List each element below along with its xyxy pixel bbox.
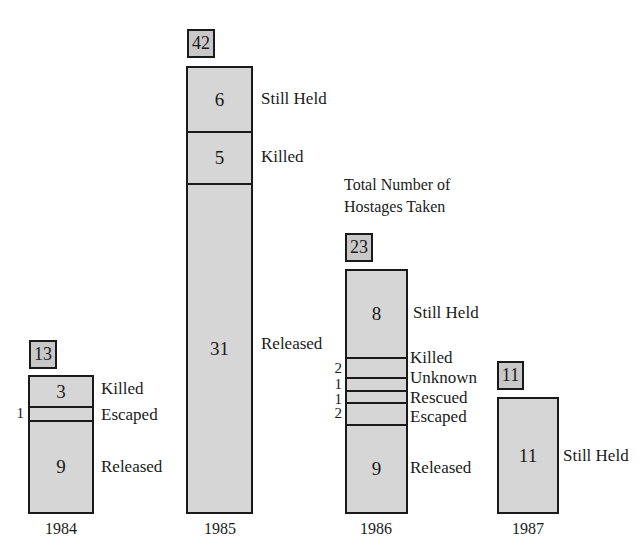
segment-escaped [30, 408, 92, 422]
bar-1986: 8 9 [345, 269, 408, 514]
label-rescued-1986: Rescued [410, 389, 468, 406]
segment-rescued [347, 392, 406, 404]
label-released-1984: Released [101, 458, 162, 475]
total-box-1984: 13 [29, 340, 57, 369]
year-1987: 1987 [493, 520, 563, 538]
label-killed-1986: Killed [410, 349, 453, 366]
label-released-1985: Released [261, 335, 322, 352]
legend-line-1: Total Number of [344, 174, 450, 196]
segment-unknown [347, 379, 406, 392]
bar-1985: 6 5 31 [186, 66, 253, 514]
segment-released: 31 [188, 185, 251, 512]
segment-escaped [347, 404, 406, 426]
segment-killed [347, 359, 406, 379]
label-still-held-1987: Still Held [563, 447, 629, 464]
label-escaped-1984: Escaped [101, 406, 158, 423]
segment-killed: 5 [188, 133, 251, 185]
segment-still-held: 6 [188, 68, 251, 133]
year-1986: 1986 [341, 520, 411, 538]
segment-still-held: 11 [499, 399, 557, 512]
value-escaped-1984: 1 [12, 406, 24, 421]
segment-released: 9 [347, 426, 406, 512]
segment-released: 9 [30, 422, 92, 512]
legend-line-2: Hostages Taken [344, 196, 450, 218]
segment-still-held: 8 [347, 271, 406, 359]
label-killed-1985: Killed [261, 148, 304, 165]
total-box-1985: 42 [187, 29, 215, 58]
label-escaped-1986: Escaped [410, 408, 467, 425]
value-escaped-1986: 2 [330, 406, 342, 421]
year-1985: 1985 [185, 520, 255, 538]
label-still-held-1985: Still Held [261, 90, 327, 107]
label-released-1986: Released [410, 459, 471, 476]
label-still-held-1986: Still Held [413, 304, 479, 321]
bar-1984: 3 9 [28, 375, 94, 514]
bar-1987: 11 [497, 397, 559, 514]
total-box-1987: 11 [497, 361, 524, 390]
year-1984: 1984 [26, 520, 96, 538]
legend-total-hostages: Total Number of Hostages Taken [344, 174, 450, 218]
label-unknown-1986: Unknown [410, 369, 477, 386]
label-killed-1984: Killed [101, 380, 144, 397]
segment-killed: 3 [30, 377, 92, 408]
value-killed-1986: 2 [330, 361, 342, 376]
total-box-1986: 23 [345, 233, 373, 262]
value-unknown-1986: 1 [330, 377, 342, 392]
